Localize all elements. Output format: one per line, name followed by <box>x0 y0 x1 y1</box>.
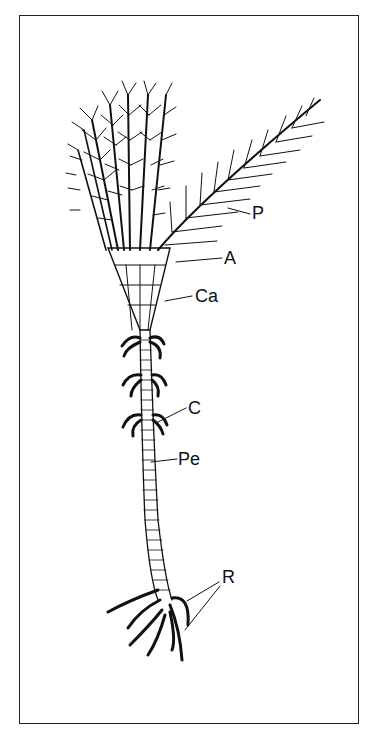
label-arm: A <box>224 249 236 267</box>
label-pelma: Pe <box>178 450 200 468</box>
label-cirri: C <box>188 399 201 417</box>
crinoid-illustration <box>0 0 372 743</box>
stem <box>140 330 172 600</box>
arm-right <box>158 98 324 250</box>
label-roots: R <box>222 568 235 586</box>
label-pinnule: P <box>252 204 264 222</box>
label-calyx: Ca <box>195 287 218 305</box>
calyx <box>108 248 170 330</box>
arms-left <box>66 81 176 250</box>
roots <box>108 590 188 660</box>
